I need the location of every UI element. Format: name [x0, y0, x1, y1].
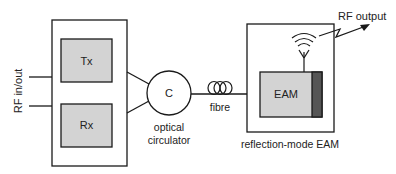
reflection-mode-eam-label: reflection-mode EAM — [241, 138, 339, 150]
rof-diagram: RF in/out Tx Rx C optical circulator fib… — [0, 0, 396, 174]
rf-output-label: RF output — [338, 10, 386, 22]
circulator-label-line2: circulator — [148, 134, 191, 146]
eam-reflector — [312, 72, 322, 117]
fibre-coil-icon — [208, 82, 232, 95]
eam-label: EAM — [274, 88, 298, 100]
circulator-label-line1: optical — [154, 121, 184, 133]
tx-label: Tx — [80, 55, 93, 67]
fibre-label: fibre — [210, 101, 231, 113]
circulator-symbol: C — [165, 87, 173, 99]
rx-to-circulator — [127, 101, 149, 113]
rx-label: Rx — [80, 119, 94, 131]
rf-in-out-label: RF in/out — [12, 69, 24, 114]
tx-to-circulator — [127, 72, 149, 84]
